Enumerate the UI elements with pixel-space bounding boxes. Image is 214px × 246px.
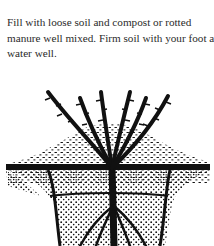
paragraph-line-2: manure well mixed. Firm soil with your f… [7,31,214,47]
planting-diagram-icon [0,86,214,246]
paragraph-line-3: water well. [7,46,214,62]
instruction-paragraph: Fill with loose soil and compost or rott… [7,15,214,62]
paragraph-line-1: Fill with loose soil and compost or rott… [7,15,214,31]
